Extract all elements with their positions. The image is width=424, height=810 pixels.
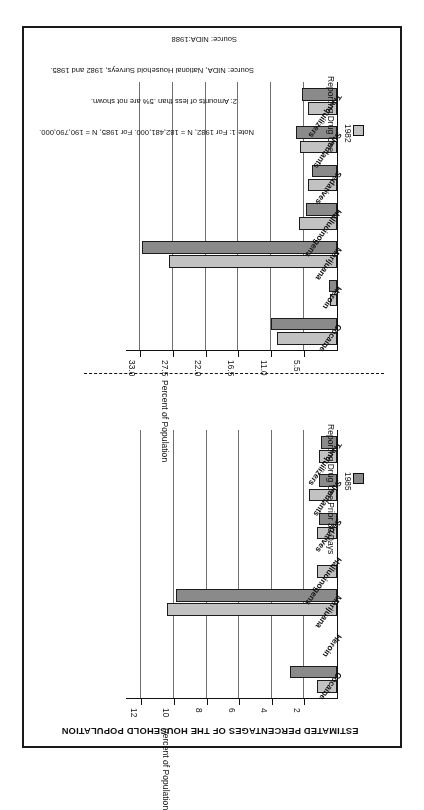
- plot-area: [126, 430, 338, 698]
- axis-tick: [141, 698, 142, 705]
- gridline: [173, 430, 174, 698]
- axis-tick-label: 5.5: [292, 360, 302, 372]
- gridline: [270, 82, 271, 350]
- chart-sheet: ESTIMATED PERCENTAGES OF THE HOUSEHOLD P…: [22, 26, 402, 748]
- axis-tick: [239, 698, 240, 705]
- axis-tick: [174, 698, 175, 705]
- note-line-3: Source: NIDA, National Household Surveys…: [39, 64, 254, 74]
- gridline: [140, 430, 141, 698]
- value-axis-line: [126, 350, 338, 351]
- gridline: [206, 430, 207, 698]
- axis-tick-label: 2: [292, 708, 302, 713]
- page-title: ESTIMATED PERCENTAGES OF THE HOUSEHOLD P…: [20, 726, 400, 736]
- axis-tick-label: 6: [227, 708, 237, 713]
- axis-tick: [304, 698, 305, 705]
- legend-label-1985: 1985: [343, 472, 353, 491]
- legend-swatch-1982: [353, 125, 364, 136]
- gridline: [238, 430, 239, 698]
- gridline: [303, 82, 304, 350]
- chart-prior-30-days: 24681012Percent of PopulationReporting D…: [126, 430, 338, 698]
- axis-tick-label: 4: [259, 708, 269, 713]
- gridline: [303, 430, 304, 698]
- axis-tick-label: 8: [194, 708, 204, 713]
- axis-tick: [271, 350, 272, 357]
- bar-cocaine-1985: [271, 318, 337, 331]
- value-axis-title: Percent of Population: [160, 380, 170, 462]
- legend-label-1982: 1982: [343, 124, 353, 143]
- notes-block: Note 1: For 1982, N = 182,481,000. For 1…: [39, 12, 254, 158]
- note-line-2: 2: Amounts of less than .5% are not show…: [39, 96, 254, 106]
- note-line-1: Note 1: For 1982, N = 182,481,000. For 1…: [39, 127, 254, 137]
- chart-divider: [84, 373, 384, 374]
- axis-tick: [206, 350, 207, 357]
- legend-swatch-1985: [353, 473, 364, 484]
- axis-tick: [304, 350, 305, 357]
- value-axis-line: [126, 698, 338, 699]
- axis-tick: [272, 698, 273, 705]
- axis-tick: [238, 350, 239, 357]
- note-line-4: Source: NIDA:1988: [39, 33, 254, 43]
- axis-tick-label: 12: [129, 708, 139, 717]
- axis-tick: [140, 350, 141, 357]
- axis-tick: [173, 350, 174, 357]
- axis-tick-label: 10: [161, 708, 171, 717]
- gridline: [271, 430, 272, 698]
- value-axis-title: Percent of Population: [161, 728, 171, 810]
- axis-tick: [207, 698, 208, 705]
